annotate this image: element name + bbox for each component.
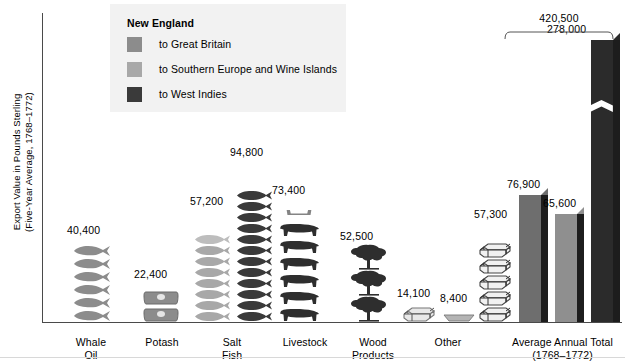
fish-icon <box>236 278 274 289</box>
cow-icon <box>278 237 320 254</box>
fish-icon <box>236 190 274 201</box>
whale-icon <box>72 283 112 296</box>
x-label-potash: Potash <box>129 336 195 349</box>
legend-label-great-britain: to Great Britain <box>159 38 231 50</box>
y-axis-title: Export Value in Pounds Sterling (Five-Ye… <box>11 47 35 277</box>
x-label-other-line1: Other <box>415 336 481 349</box>
pictogram-column-potash <box>142 288 180 322</box>
legend-title: New England <box>127 17 194 29</box>
barrel-icon <box>142 305 180 322</box>
x-axis-line <box>42 322 622 323</box>
x-label-average-annual-total: Average Annual Total (1768–1772) <box>500 336 625 362</box>
bar-face-southern-europe <box>555 214 577 322</box>
bar-side-southern-europe <box>577 214 584 322</box>
pictogram-column-whale-oil <box>72 244 112 322</box>
whale-icon <box>72 257 112 270</box>
fish-icon <box>194 267 232 278</box>
whale-icon <box>72 244 112 257</box>
x-label-livestock-line1: Livestock <box>265 336 345 349</box>
bar-value-southern-europe: 65,600 <box>543 197 576 209</box>
fish-icon <box>236 234 274 245</box>
crate-icon <box>478 242 512 258</box>
whale-icon <box>72 270 112 283</box>
fish-icon <box>236 245 274 256</box>
pictogram-column-livestock <box>278 206 320 322</box>
pictogram-value-wood-products: 52,500 <box>340 230 373 242</box>
total-bracket <box>504 30 614 40</box>
pictogram-value-other-southern-europe: 8,400 <box>440 292 467 304</box>
whale-icon <box>72 296 112 309</box>
fish-icon <box>236 300 274 311</box>
bar-face-great-britain <box>519 195 541 322</box>
tree-icon <box>348 296 390 322</box>
grand-total-label: 420,500 <box>504 12 614 24</box>
fish-icon <box>194 300 232 311</box>
cow-icon <box>278 305 320 322</box>
cow-icon <box>278 220 320 237</box>
bar-face-west-indies <box>591 40 613 322</box>
pictogram-value-salt-fish-southern-europe: 57,200 <box>190 195 223 207</box>
x-label-livestock: Livestock <box>265 336 345 349</box>
bar-west-indies[interactable]: 278,000 <box>591 40 613 322</box>
x-label-whale-oil: Whale Oil <box>58 336 124 362</box>
bar-southern-europe[interactable]: 65,600 <box>555 214 577 322</box>
fish-icon <box>236 311 274 322</box>
fish-icon <box>194 278 232 289</box>
bar-value-great-britain: 76,900 <box>507 178 540 190</box>
barrel-icon <box>142 288 180 305</box>
x-label-wood-products-line2: Products <box>338 349 408 362</box>
legend-label-west-indies: to West Indies <box>159 88 227 100</box>
pictogram-column-salt-fish-west-indies <box>236 190 274 322</box>
y-axis-title-line2: (Five-Year Average, 1768–1772) <box>23 47 35 277</box>
legend-label-southern-europe: to Southern Europe and Wine Islands <box>159 63 337 75</box>
pictogram-value-livestock: 73,400 <box>272 184 305 196</box>
crate-icon <box>478 290 512 306</box>
boat-icon <box>442 313 476 322</box>
chart-root: Export Value in Pounds Sterling (Five-Ye… <box>0 0 625 364</box>
footer-divider <box>0 357 625 358</box>
legend-swatch-west-indies <box>127 87 142 102</box>
x-label-average-annual-total-line1: Average Annual Total <box>500 336 625 349</box>
cow-icon <box>278 206 320 220</box>
x-label-potash-line1: Potash <box>129 336 195 349</box>
x-label-wood-products-line1: Wood <box>338 336 408 349</box>
legend-swatch-southern-europe <box>127 62 142 77</box>
tree-icon <box>348 270 390 296</box>
crate-icon <box>478 274 512 290</box>
pictogram-column-other-southern-europe <box>442 313 476 322</box>
bar-great-britain[interactable]: 76,900 <box>519 195 541 322</box>
x-label-salt-fish-line2: Fish <box>199 349 265 362</box>
crate-icon <box>402 306 436 322</box>
pictogram-value-potash: 22,400 <box>134 268 167 280</box>
pictogram-value-other-west-indies: 57,300 <box>474 208 507 220</box>
x-label-salt-fish-line1: Salt <box>199 336 265 349</box>
pictogram-value-salt-fish-west-indies: 94,800 <box>230 146 263 158</box>
pictogram-value-other-great-britain: 14,100 <box>397 287 430 299</box>
fish-icon <box>236 212 274 223</box>
fish-icon <box>236 256 274 267</box>
fish-icon <box>194 245 232 256</box>
legend: New England to Great Britain to Southern… <box>110 4 346 112</box>
legend-swatch-great-britain <box>127 37 142 52</box>
x-label-other: Other <box>415 336 481 349</box>
fish-icon <box>194 256 232 267</box>
fish-icon <box>236 223 274 234</box>
bar-side-great-britain <box>541 195 548 322</box>
pictogram-column-other-great-britain <box>402 306 436 322</box>
fish-icon <box>236 289 274 300</box>
y-axis-title-line1: Export Value in Pounds Sterling <box>11 94 22 231</box>
fish-icon <box>236 201 274 212</box>
y-axis-line <box>42 13 43 323</box>
cow-icon <box>278 254 320 271</box>
x-label-whale-oil-line1: Whale <box>58 336 124 349</box>
pictogram-column-other-west-indies <box>478 242 512 322</box>
x-label-average-annual-total-line2: (1768–1772) <box>500 349 625 362</box>
x-label-wood-products: Wood Products <box>338 336 408 362</box>
cow-icon <box>278 271 320 288</box>
cow-icon <box>278 288 320 305</box>
tree-icon <box>348 244 390 270</box>
pictogram-column-wood-products <box>348 244 390 322</box>
whale-icon <box>72 309 112 322</box>
pictogram-value-whale-oil: 40,400 <box>67 224 100 236</box>
fish-icon <box>194 289 232 300</box>
